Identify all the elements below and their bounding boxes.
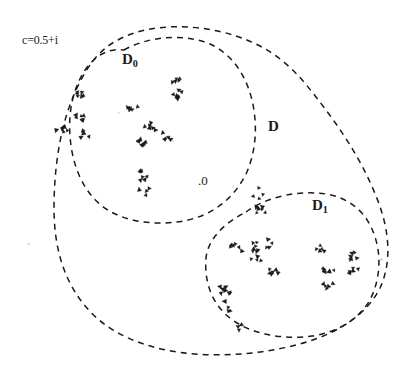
sample-point — [322, 249, 326, 253]
point-cluster — [250, 255, 264, 263]
point-cluster — [73, 113, 86, 123]
region-boundary-D1-inner — [206, 193, 379, 337]
sample-point — [332, 268, 336, 272]
sample-point — [268, 267, 272, 271]
sample-point — [87, 134, 92, 139]
point-cluster — [217, 284, 232, 296]
point-cluster — [142, 121, 158, 133]
point-cluster — [74, 89, 85, 100]
sample-point — [250, 257, 254, 261]
sample-point — [354, 255, 360, 261]
sample-point — [135, 104, 140, 109]
point-cluster — [171, 87, 184, 101]
sample-point — [256, 211, 259, 214]
region-boundaries — [54, 27, 388, 355]
point-cluster — [136, 185, 152, 197]
sample-point — [327, 269, 333, 275]
sample-point — [80, 90, 85, 95]
point-cluster — [235, 322, 244, 332]
point-cluster — [321, 266, 336, 275]
point-cluster — [160, 130, 174, 142]
point-cluster — [348, 250, 359, 261]
point-cluster — [78, 128, 92, 140]
outer-region-label: D — [268, 119, 279, 134]
point-cluster — [170, 76, 182, 84]
parameter-label: c=0.5+i — [22, 34, 58, 46]
sample-point — [270, 241, 274, 245]
point-cluster — [320, 281, 335, 291]
point-cluster — [267, 267, 280, 276]
sample-point — [78, 134, 84, 140]
sample-point — [254, 240, 258, 244]
sample-point — [226, 305, 230, 310]
point-cluster — [229, 242, 245, 253]
sample-point — [142, 124, 147, 129]
point-cluster — [347, 266, 361, 276]
sample-point — [265, 236, 271, 242]
sample-point — [259, 259, 263, 263]
subregion-d1-letter: D — [312, 197, 323, 213]
origin-marker-label: .0 — [198, 174, 208, 187]
sample-point — [275, 271, 280, 276]
sample-point — [256, 185, 261, 190]
point-cluster — [265, 236, 275, 250]
sample-point — [54, 127, 60, 133]
sample-point — [136, 187, 142, 193]
sample-point — [331, 281, 336, 285]
sample-point — [261, 192, 265, 196]
sample-point — [222, 299, 228, 305]
sample-point — [315, 247, 319, 251]
point-cluster — [136, 137, 149, 148]
sample-point — [235, 324, 240, 329]
point-cluster — [315, 244, 327, 254]
sample-point — [160, 130, 166, 136]
sample-point — [65, 129, 69, 133]
subregion-d1-label: D1 — [312, 198, 328, 215]
subregion-d1-subscript: 1 — [323, 204, 328, 215]
point-cluster — [137, 168, 149, 182]
sample-point — [356, 266, 361, 271]
point-cluster — [54, 124, 69, 134]
region-diagram-svg — [0, 0, 402, 378]
subregion-d0-letter: D — [122, 51, 133, 67]
sample-point — [251, 194, 256, 199]
sample-point — [237, 244, 242, 249]
figure-canvas: c=0.5+i D0 D D1 .0 — [0, 0, 402, 378]
region-boundary-D-outer — [54, 27, 388, 355]
subregion-d0-label: D0 — [122, 52, 138, 69]
subregion-d0-subscript: 0 — [133, 58, 138, 69]
point-cluster — [250, 240, 260, 254]
sample-point — [263, 210, 267, 214]
sample-point — [143, 193, 147, 197]
point-cluster — [253, 205, 267, 215]
point-cluster — [222, 299, 233, 314]
sample-point — [257, 196, 261, 200]
sample-point — [229, 309, 233, 313]
sample-point — [255, 255, 260, 260]
sample-point — [319, 244, 322, 247]
point-cluster — [125, 104, 140, 112]
point-cluster — [251, 185, 265, 200]
sample-point — [179, 90, 184, 94]
